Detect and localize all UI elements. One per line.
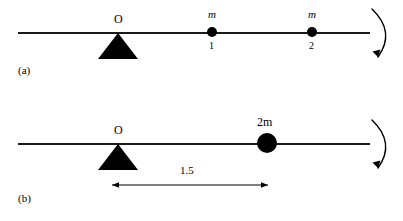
physics-figure: O m 1 m 2 (a) O 2m xyxy=(0,0,403,221)
dimension-line-svg xyxy=(0,110,403,221)
rotation-arrow-a-svg xyxy=(0,0,403,110)
dimension-line-1-5 xyxy=(112,182,268,188)
panel-a: O m 1 m 2 (a) xyxy=(0,0,403,110)
panel-b: O 2m 1.5 (b) xyxy=(0,110,403,221)
rotation-arrow-a xyxy=(372,9,386,57)
dimension-label: 1.5 xyxy=(180,165,194,176)
rotation-arrow-b xyxy=(372,120,386,168)
panel-label-b: (b) xyxy=(18,193,31,204)
panel-label-a: (a) xyxy=(18,65,30,76)
